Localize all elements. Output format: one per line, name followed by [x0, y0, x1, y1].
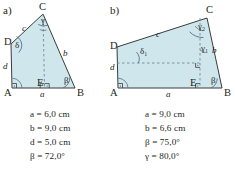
panel-b-vertex-D: D [110, 41, 118, 52]
panel-b-vertex-E: E [190, 78, 196, 89]
panel-b-edge-c: c [156, 30, 160, 39]
panel-b-quadrilateral [117, 18, 222, 88]
panel-b-right-angle-A-dot [120, 85, 121, 86]
panel-b-given-3: β = 75,0° [145, 135, 185, 149]
panel-b-edge-d: d [110, 63, 115, 72]
figure-sheet: a) C D A B E c b d a δ γ β a = 6,0 cm b … [0, 0, 235, 172]
panel-b-angle-delta1: δ₁ [140, 47, 147, 56]
panel-b-vertex-C: C [206, 5, 213, 16]
panel-b-vertex-B: B [224, 88, 231, 99]
panel-b-given-values: a = 9,0 cm b = 6,6 cm β = 75,0° γ = 80,0… [145, 107, 185, 163]
panel-b-edge-b: b [212, 46, 217, 55]
panel-b-angle-gamma2: γ₂ [198, 22, 205, 31]
panel-b-given-4: γ = 80,0° [145, 149, 185, 163]
panel-b-right-angle-E-dot [197, 85, 198, 86]
panel-b-vertex-A: A [110, 88, 118, 99]
panel-b-edge-a: a [166, 90, 171, 99]
panel-b-given-1: a = 9,0 cm [145, 107, 185, 121]
panel-b-angle-beta: β [211, 76, 216, 85]
panel-b-angle-gamma1: γ₁ [201, 44, 208, 53]
panel-b-given-2: b = 6,6 cm [145, 121, 185, 135]
panel-b-right-angle-crossing-dot [197, 65, 198, 66]
